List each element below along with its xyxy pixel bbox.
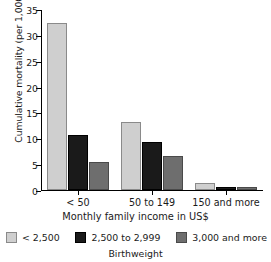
- x-tick-mark: [78, 191, 79, 195]
- legend-swatch-icon: [6, 232, 17, 243]
- plot-area: 05101520253035 < 5050 to 149150 and more: [41, 10, 263, 191]
- y-tick-label: 30: [26, 30, 38, 41]
- bar: [121, 122, 141, 190]
- legend-swatch-icon: [176, 232, 187, 243]
- x-axis-title: Monthly family income in US$: [0, 211, 271, 222]
- legend-label: 2,500 to 2,999: [91, 232, 160, 243]
- y-axis-title: Cumulative mortality (per 1,000): [13, 0, 24, 148]
- bar: [216, 187, 236, 190]
- x-tick-mark: [226, 191, 227, 195]
- legend-label: < 2,500: [22, 232, 60, 243]
- bar: [195, 183, 215, 190]
- x-tick-label: 50 to 149: [129, 197, 175, 208]
- legend-item[interactable]: 3,000 and more: [176, 232, 267, 243]
- y-tick-label: 20: [26, 82, 38, 93]
- legend-swatch-icon: [75, 232, 86, 243]
- bar: [142, 142, 162, 190]
- bar: [237, 187, 257, 190]
- y-tick-label: 25: [26, 56, 38, 67]
- legend-title: Birthweight: [0, 248, 271, 259]
- y-axis-line: [41, 10, 42, 191]
- legend-item[interactable]: < 2,500: [6, 232, 60, 243]
- bar: [89, 162, 109, 190]
- legend: < 2,5002,500 to 2,9993,000 and more: [6, 232, 267, 243]
- y-tick-label: 0: [32, 186, 38, 197]
- bar: [47, 23, 67, 190]
- legend-label: 3,000 and more: [192, 232, 267, 243]
- y-tick-label: 35: [26, 5, 38, 16]
- x-tick-mark: [152, 191, 153, 195]
- x-tick-label: < 50: [66, 197, 89, 208]
- legend-item[interactable]: 2,500 to 2,999: [75, 232, 160, 243]
- y-tick-label: 10: [26, 134, 38, 145]
- bar: [68, 135, 88, 190]
- x-tick-label: 150 and more: [192, 197, 259, 208]
- bar: [163, 156, 183, 190]
- y-tick-label: 15: [26, 108, 38, 119]
- y-tick-label: 5: [32, 160, 38, 171]
- chart-figure: Cumulative mortality (per 1,000) 0510152…: [0, 0, 271, 262]
